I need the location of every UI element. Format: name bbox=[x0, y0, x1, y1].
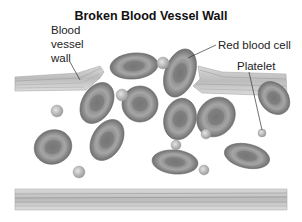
diagram-canvas bbox=[0, 0, 302, 222]
red-blood-cell bbox=[151, 148, 199, 176]
red-blood-cell bbox=[159, 95, 201, 144]
label-line: Blood bbox=[51, 23, 84, 37]
platelet bbox=[73, 166, 85, 178]
red-blood-cell bbox=[222, 139, 272, 172]
label-red-blood-cell: Red blood cell bbox=[218, 38, 291, 52]
platelet bbox=[157, 57, 169, 69]
label-line: vessel bbox=[51, 37, 84, 51]
diagram-title: Broken Blood Vessel Wall bbox=[0, 9, 302, 23]
platelet bbox=[116, 89, 128, 101]
platelet bbox=[199, 165, 209, 175]
vessel-wall-lower bbox=[15, 189, 287, 210]
platelet bbox=[258, 129, 266, 137]
red-blood-cell bbox=[29, 125, 76, 170]
label-blood-vessel-wall: Blood vessel wall bbox=[51, 23, 84, 65]
red-blood-cell bbox=[109, 51, 159, 81]
red-blood-cell bbox=[189, 89, 244, 144]
label-platelet: Platelet bbox=[237, 59, 275, 73]
red-blood-cell bbox=[157, 44, 202, 101]
platelet bbox=[201, 129, 211, 139]
platelet bbox=[171, 140, 181, 150]
platelet bbox=[51, 105, 63, 117]
red-blood-cell bbox=[119, 83, 161, 125]
label-line: wall bbox=[51, 51, 84, 65]
